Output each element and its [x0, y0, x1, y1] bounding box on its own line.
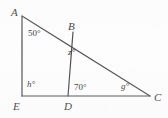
cevian-b-d — [68, 32, 73, 96]
vertex-label-c: C — [154, 92, 161, 103]
vertex-label-d: D — [64, 101, 72, 112]
vertex-label-a: A — [11, 7, 18, 18]
angle-label-b: z° — [68, 48, 75, 57]
angle-label-e: h° — [27, 80, 35, 89]
vertex-label-e: E — [13, 101, 20, 112]
triangle-diagram-svg — [0, 0, 168, 118]
vertex-label-b: B — [68, 21, 75, 32]
angle-label-c: g° — [121, 82, 129, 91]
geometry-figure-canvas: A B C D E 50° z° 70° g° h° — [0, 0, 168, 118]
angle-label-a: 50° — [28, 29, 41, 38]
segment-b-d — [68, 32, 73, 96]
angle-label-d: 70° — [74, 83, 87, 92]
